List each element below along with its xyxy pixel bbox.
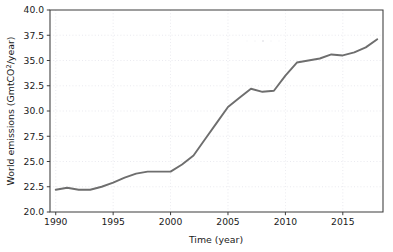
y-tick-label: 25.0 <box>24 156 45 167</box>
y-tick-label: 30.0 <box>24 105 45 116</box>
y-tick-label: 22.5 <box>24 181 45 192</box>
y-axis-tick-labels: 20.022.525.027.530.032.535.037.540.0 <box>24 4 45 217</box>
y-tick-label: 27.5 <box>24 131 45 142</box>
y-axis-title: World emissions (GmtCO2/year) <box>5 37 16 186</box>
y-tick-label: 32.5 <box>24 80 45 91</box>
y-tick-label: 37.5 <box>24 30 45 41</box>
x-axis-title: Time (year) <box>188 234 243 245</box>
y-tick-label: 35.0 <box>24 55 45 66</box>
y-tick-label: 20.0 <box>24 206 45 217</box>
x-tick-label: 2005 <box>216 216 240 227</box>
x-tick-label: 1990 <box>44 216 68 227</box>
y-tick-label: 40.0 <box>24 4 45 15</box>
x-tick-label: 1995 <box>101 216 125 227</box>
x-tick-label: 2015 <box>331 216 355 227</box>
x-tick-label: 2010 <box>274 216 298 227</box>
x-tick-label: 2000 <box>159 216 183 227</box>
emissions-line-chart: 20.022.525.027.530.032.535.037.540.0 199… <box>0 0 393 252</box>
